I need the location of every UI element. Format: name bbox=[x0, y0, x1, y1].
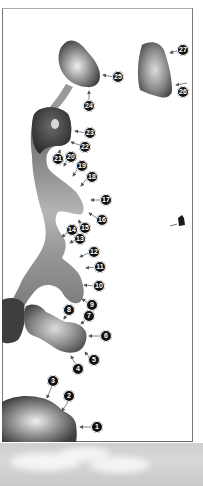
callout-22: 22 bbox=[79, 141, 91, 153]
callout-20: 20 bbox=[65, 151, 77, 163]
callout-16: 16 bbox=[96, 214, 108, 226]
sky-strip bbox=[0, 443, 203, 486]
landmass-4-8 bbox=[24, 304, 87, 352]
callout-7: 7 bbox=[83, 310, 95, 322]
callout-8: 8 bbox=[63, 304, 75, 316]
callout-14: 14 bbox=[66, 224, 78, 236]
callout-27: 27 bbox=[177, 44, 189, 56]
callout-18: 18 bbox=[86, 171, 98, 183]
leader-line bbox=[170, 224, 177, 226]
cloud bbox=[90, 457, 150, 473]
callout-2: 2 bbox=[63, 390, 75, 402]
landmass-1-3 bbox=[2, 396, 77, 442]
callout-23: 23 bbox=[84, 127, 96, 139]
callout-26: 26 bbox=[177, 86, 189, 98]
callout-15: 15 bbox=[79, 222, 91, 234]
small-island-glyph bbox=[178, 215, 185, 226]
landmass-24-25 bbox=[59, 41, 100, 88]
landmass-map bbox=[0, 0, 203, 486]
callout-11: 11 bbox=[94, 261, 106, 273]
callout-19: 19 bbox=[76, 160, 88, 172]
leader-lines bbox=[47, 50, 187, 427]
lake bbox=[51, 119, 59, 129]
landmass-left-fragment bbox=[2, 298, 25, 343]
callout-21: 21 bbox=[52, 153, 64, 165]
callout-4: 4 bbox=[72, 363, 84, 375]
callout-3: 3 bbox=[47, 375, 59, 387]
callout-1: 1 bbox=[91, 421, 103, 433]
callout-17: 17 bbox=[100, 194, 112, 206]
callout-9: 9 bbox=[86, 299, 98, 311]
callout-12: 12 bbox=[88, 246, 100, 258]
landmass-26-27 bbox=[138, 42, 172, 97]
callout-13: 13 bbox=[74, 233, 86, 245]
callout-24: 24 bbox=[83, 100, 95, 112]
callout-5: 5 bbox=[88, 354, 100, 366]
callout-10: 10 bbox=[93, 280, 105, 292]
callout-25: 25 bbox=[112, 71, 124, 83]
callout-6: 6 bbox=[100, 330, 112, 342]
isthmus bbox=[50, 84, 73, 110]
